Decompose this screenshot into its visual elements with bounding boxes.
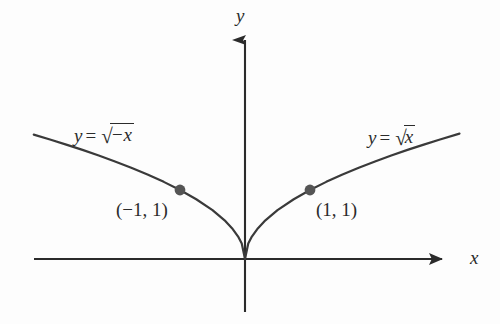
x-axis-label: x (470, 248, 478, 267)
equation-equals: = (82, 125, 99, 146)
curve-label-sqrt-minus-x: y=√−x (74, 124, 134, 146)
radical-group: √x (393, 126, 415, 148)
radical-group: √−x (99, 124, 134, 146)
point-marker-minus1-1 (175, 185, 186, 196)
point-marker-1-1 (305, 185, 316, 196)
math-figure: y x y=√−x y=√x (−1, 1) (1, 1) (0, 0, 500, 324)
equation-equals: = (376, 127, 393, 148)
radicand: x (404, 125, 415, 146)
curve-sqrt-minus-x (34, 135, 245, 259)
point-label-minus1-1: (−1, 1) (116, 200, 168, 219)
y-axis-label: y (236, 6, 244, 25)
curve-label-sqrt-x: y=√x (368, 126, 415, 148)
point-label-1-1: (1, 1) (316, 200, 357, 219)
plot-canvas (0, 0, 500, 324)
curve-sqrt-x (245, 134, 460, 259)
radicand: −x (110, 123, 134, 144)
